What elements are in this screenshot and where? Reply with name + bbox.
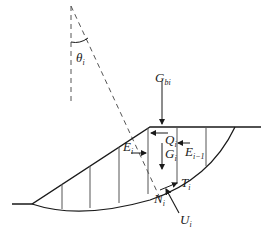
t-force-arrow bbox=[160, 183, 177, 190]
u-label: Ui bbox=[180, 212, 192, 229]
n-label: Ni bbox=[153, 191, 165, 208]
angle-arc bbox=[71, 38, 88, 43]
slice-lines bbox=[62, 127, 206, 209]
gbi-label: Gbi bbox=[155, 70, 171, 87]
slope-slice-diagram: θi Gbi Qi Ei Ei−1 Gi Ti bbox=[0, 0, 261, 235]
e-right-label: Ei−1 bbox=[184, 144, 205, 161]
theta-label: θi bbox=[76, 50, 85, 67]
ground-surface bbox=[12, 127, 261, 204]
n-force-arrow bbox=[166, 189, 179, 213]
e-left-label: Ei bbox=[122, 139, 133, 156]
t-label: Ti bbox=[181, 175, 190, 192]
